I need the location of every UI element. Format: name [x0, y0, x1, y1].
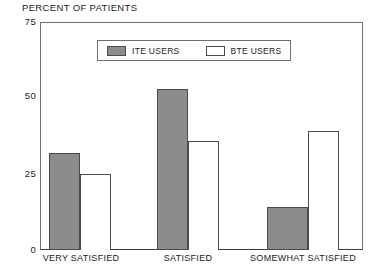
bar-bte-somewhat-satisfied — [308, 131, 339, 250]
y-tick-label-75: 75 — [10, 16, 36, 27]
empty-white-swatch-icon — [206, 46, 225, 56]
y-tick-label-50: 50 — [10, 90, 36, 101]
y-tick-label-0: 0 — [10, 244, 36, 255]
bar-ite-very-satisfied — [49, 153, 80, 250]
bar-bte-satisfied — [188, 141, 219, 250]
y-axis: 75 50 25 0 — [4, 0, 36, 273]
bar-chart: PERCENT OF PATIENTS 75 50 25 0 VERY SATI… — [0, 0, 372, 273]
legend-item-ite-users: ITE USERS — [107, 46, 180, 56]
legend-label-ite-users: ITE USERS — [132, 46, 180, 56]
x-label-somewhat-satisfied: SOMEWHAT SATISFIED — [250, 253, 356, 263]
y-tick-label-25: 25 — [10, 168, 36, 179]
x-axis: VERY SATISFIED SATISFIED SOMEWHAT SATISF… — [41, 253, 363, 273]
x-label-satisfied: SATISFIED — [164, 253, 213, 263]
chart-legend: ITE USERS BTE USERS — [97, 40, 291, 61]
bar-bte-very-satisfied — [80, 174, 111, 250]
legend-label-bte-users: BTE USERS — [231, 46, 282, 56]
bar-ite-satisfied — [157, 89, 188, 250]
legend-item-bte-users: BTE USERS — [206, 46, 282, 56]
chart-title: PERCENT OF PATIENTS — [22, 2, 137, 13]
bar-ite-somewhat-satisfied — [267, 207, 308, 250]
x-label-very-satisfied: VERY SATISFIED — [43, 253, 120, 263]
filled-gray-swatch-icon — [107, 46, 126, 56]
